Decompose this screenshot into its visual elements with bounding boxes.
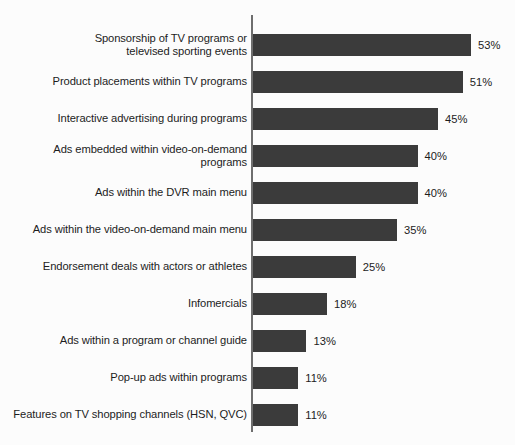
- bar: [253, 145, 418, 167]
- bar: [253, 404, 298, 426]
- bar-row: Interactive advertising during programs4…: [0, 108, 515, 130]
- bar: [253, 330, 306, 352]
- bar-row: Product placements within TV programs51%: [0, 71, 515, 93]
- bar-row: Ads embedded within video-on-demand prog…: [0, 145, 515, 167]
- category-label: Ads embedded within video-on-demand prog…: [7, 143, 247, 169]
- bar-value-label: 11%: [305, 371, 327, 385]
- category-label: Ads within the DVR main menu: [7, 186, 247, 199]
- bar-row: Features on TV shopping channels (HSN, Q…: [0, 404, 515, 426]
- category-label: Sponsorship of TV programs or televised …: [7, 32, 247, 58]
- category-label: Ads within a program or channel guide: [7, 334, 247, 347]
- category-label: Ads within the video-on-demand main menu: [7, 223, 247, 236]
- bar-row: Endorsement deals with actors or athlete…: [0, 256, 515, 278]
- bar: [253, 256, 356, 278]
- category-label: Product placements within TV programs: [7, 75, 247, 88]
- bar: [253, 367, 298, 389]
- bar-row: Infomercials18%: [0, 293, 515, 315]
- bar-value-label: 40%: [425, 186, 447, 200]
- category-label: Interactive advertising during programs: [7, 112, 247, 125]
- bar-value-label: 45%: [445, 112, 467, 126]
- bar-value-label: 13%: [313, 334, 335, 348]
- bar-value-label: 35%: [404, 223, 426, 237]
- bar-value-label: 18%: [334, 297, 356, 311]
- bar-value-label: 51%: [470, 75, 492, 89]
- bar-value-label: 53%: [478, 38, 500, 52]
- bar: [253, 108, 438, 130]
- category-label: Features on TV shopping channels (HSN, Q…: [7, 408, 247, 421]
- bar-row: Ads within the video-on-demand main menu…: [0, 219, 515, 241]
- category-label: Pop-up ads within programs: [7, 371, 247, 384]
- bar-value-label: 25%: [363, 260, 385, 274]
- bar-row: Ads within a program or channel guide13%: [0, 330, 515, 352]
- bar: [253, 34, 471, 56]
- category-label: Endorsement deals with actors or athlete…: [7, 260, 247, 273]
- bar-row: Pop-up ads within programs11%: [0, 367, 515, 389]
- bar: [253, 293, 327, 315]
- bar: [253, 219, 397, 241]
- bar-value-label: 11%: [305, 408, 327, 422]
- bar: [253, 71, 463, 93]
- category-label: Infomercials: [7, 297, 247, 310]
- bar-value-label: 40%: [425, 149, 447, 163]
- bar-row: Sponsorship of TV programs or televised …: [0, 34, 515, 56]
- bar-row: Ads within the DVR main menu40%: [0, 182, 515, 204]
- bar: [253, 182, 418, 204]
- horizontal-bar-chart: Sponsorship of TV programs or televised …: [0, 0, 515, 445]
